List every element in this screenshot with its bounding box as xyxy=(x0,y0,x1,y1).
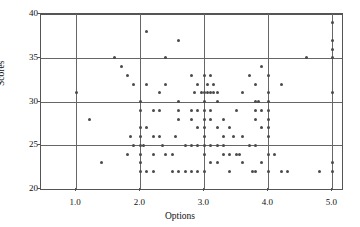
data-point xyxy=(171,170,174,173)
data-point xyxy=(267,153,270,156)
data-point xyxy=(152,170,155,173)
x-tick-label: 3.0 xyxy=(188,198,218,207)
data-point xyxy=(267,100,270,103)
data-point xyxy=(145,30,148,33)
data-point xyxy=(152,153,155,156)
data-point xyxy=(209,118,212,121)
data-point xyxy=(190,118,193,121)
data-point xyxy=(100,161,103,164)
data-point xyxy=(216,100,219,103)
data-point xyxy=(88,118,91,121)
data-point xyxy=(203,109,206,112)
data-point xyxy=(286,170,289,173)
data-point xyxy=(216,91,219,94)
data-point xyxy=(158,91,161,94)
data-point xyxy=(209,74,212,77)
data-point xyxy=(203,100,206,103)
data-point xyxy=(190,170,193,173)
data-point xyxy=(145,83,148,86)
data-point xyxy=(260,161,263,164)
data-point xyxy=(196,170,199,173)
data-point xyxy=(206,83,209,86)
data-point xyxy=(184,170,187,173)
data-point xyxy=(203,118,206,121)
data-point xyxy=(158,109,161,112)
data-point xyxy=(254,144,257,147)
plot-area xyxy=(40,13,343,190)
data-point xyxy=(222,144,225,147)
y-tick-mark xyxy=(37,57,40,58)
data-point xyxy=(139,153,142,156)
data-point xyxy=(241,91,244,94)
data-point xyxy=(331,170,334,173)
data-point xyxy=(267,109,270,112)
data-point xyxy=(232,135,235,138)
data-point xyxy=(196,144,199,147)
data-point xyxy=(203,144,206,147)
data-point xyxy=(177,100,180,103)
data-point xyxy=(212,83,215,86)
data-point xyxy=(241,135,244,138)
y-tick-label: 25 xyxy=(12,140,38,149)
data-point xyxy=(280,170,283,173)
data-point xyxy=(260,65,263,68)
x-gridline xyxy=(76,14,77,189)
data-point xyxy=(164,56,167,59)
y-tick-label: 20 xyxy=(12,184,38,193)
data-point xyxy=(113,56,116,59)
data-point xyxy=(190,74,193,77)
data-point xyxy=(139,109,142,112)
y-tick-label: 40 xyxy=(12,9,38,18)
data-point xyxy=(267,74,270,77)
data-point xyxy=(235,109,238,112)
data-point xyxy=(331,48,334,51)
data-point xyxy=(267,91,270,94)
data-point xyxy=(120,65,123,68)
data-point xyxy=(139,100,142,103)
data-point xyxy=(177,118,180,121)
data-point xyxy=(228,170,231,173)
data-point xyxy=(318,170,321,173)
data-point xyxy=(254,109,257,112)
data-point xyxy=(254,118,257,121)
data-point xyxy=(203,126,206,129)
data-point xyxy=(174,135,177,138)
data-point xyxy=(331,39,334,42)
data-point xyxy=(196,83,199,86)
x-tick-mark xyxy=(331,188,332,191)
y-gridline xyxy=(41,58,342,59)
data-point xyxy=(152,109,155,112)
data-point xyxy=(331,56,334,59)
data-point xyxy=(184,144,187,147)
data-point xyxy=(132,144,135,147)
data-point xyxy=(177,39,180,42)
data-point xyxy=(267,126,270,129)
y-axis-title: Scores xyxy=(0,61,6,86)
data-point xyxy=(145,126,148,129)
data-point xyxy=(209,144,212,147)
data-point xyxy=(193,91,196,94)
data-point xyxy=(241,161,244,164)
x-tick-label: 2.0 xyxy=(124,198,154,207)
x-tick-label: 4.0 xyxy=(252,198,282,207)
data-point xyxy=(273,153,276,156)
data-point xyxy=(152,135,155,138)
data-point xyxy=(254,83,257,86)
y-gridline xyxy=(41,14,342,15)
data-point xyxy=(161,144,164,147)
x-tick-mark xyxy=(75,188,76,191)
x-tick-mark xyxy=(203,188,204,191)
data-point xyxy=(267,135,270,138)
data-point xyxy=(139,135,142,138)
data-point xyxy=(139,170,142,173)
data-point xyxy=(222,118,225,121)
data-point xyxy=(331,91,334,94)
data-point xyxy=(203,135,206,138)
data-point xyxy=(139,126,142,129)
x-axis-tick-labels: 1.02.03.04.05.0 xyxy=(0,194,360,208)
data-point xyxy=(216,144,219,147)
data-point xyxy=(222,153,225,156)
data-point xyxy=(222,135,225,138)
data-point xyxy=(126,153,129,156)
y-tick-mark xyxy=(37,144,40,145)
